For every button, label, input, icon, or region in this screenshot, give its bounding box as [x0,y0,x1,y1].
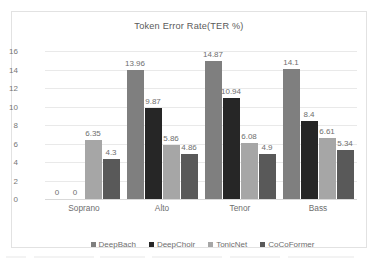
bar-value-label: 8.4 [303,111,314,119]
bar-value-label: 10.94 [221,88,241,96]
category-axis: SopranoAltoTenorBass [45,203,357,213]
bar-value-label: 0 [73,189,77,197]
bar[interactable] [85,140,102,199]
bar-slot: 6.35 [85,51,102,199]
bar-value-label: 0 [55,189,59,197]
gridline [45,199,357,200]
scan-artifact [34,256,94,258]
bar[interactable] [181,154,198,199]
chart-legend: DeepBachDeepChoirTonicNetCoCoFormer [12,240,381,249]
bar-value-label: 4.3 [105,149,116,157]
legend-item[interactable]: TonicNet [208,240,247,249]
y-axis-tick-label: 8 [0,121,18,130]
bar[interactable] [223,98,240,199]
plot-area: 0246810121416 006.354.313.969.875.864.86… [45,51,357,199]
bar-slot: 14.1 [283,51,300,199]
scan-artifact [288,256,354,258]
legend-label: TonicNet [216,240,247,249]
y-axis-tick-label: 6 [0,139,18,148]
legend-item[interactable]: CoCoFormer [260,240,314,249]
scan-artifact [6,256,26,258]
bar-value-label: 14.1 [283,59,299,67]
bar-slot: 6.61 [319,51,336,199]
legend-swatch-icon [260,242,265,247]
legend-item[interactable]: DeepBach [91,240,136,249]
bar-value-label: 14.87 [203,51,223,59]
bar-value-label: 6.61 [319,128,335,136]
bar-value-label: 9.87 [145,98,161,106]
scan-artifact [230,256,280,258]
bar-group: 14.8710.946.084.9 [201,51,279,199]
scan-artifact [152,256,222,258]
bar[interactable] [259,154,276,199]
y-axis-tick-label: 14 [0,65,18,74]
bar-value-label: 4.9 [261,144,272,152]
bar-slot: 14.87 [205,51,222,199]
chart-container: Token Error Rate(TER %) 0246810121416 00… [11,11,367,248]
bar-slot: 0 [67,51,84,199]
scan-artifact [100,256,145,258]
category-label: Alto [123,203,201,213]
bar-slot: 6.08 [241,51,258,199]
bar[interactable] [283,69,300,199]
legend-label: DeepBach [99,240,136,249]
legend-label: CoCoFormer [268,240,314,249]
bar-group: 006.354.3 [45,51,123,199]
bar-slot: 0 [49,51,66,199]
bar-value-label: 5.86 [163,135,179,143]
bar-slot: 4.9 [259,51,276,199]
bar[interactable] [301,121,318,199]
y-axis-tick-label: 0 [0,195,18,204]
bar-groups: 006.354.313.969.875.864.8614.8710.946.08… [45,51,357,199]
y-axis-tick-label: 12 [0,84,18,93]
chart-title: Token Error Rate(TER %) [12,21,366,31]
bar-group: 14.18.46.615.34 [279,51,357,199]
legend-swatch-icon [91,242,96,247]
y-axis-tick-label: 2 [0,176,18,185]
bar-slot: 4.86 [181,51,198,199]
bar[interactable] [145,108,162,199]
bar-slot: 9.87 [145,51,162,199]
bar-slot: 8.4 [301,51,318,199]
bar[interactable] [163,145,180,199]
legend-label: DeepChoir [157,240,195,249]
bar-slot: 4.3 [103,51,120,199]
bar-slot: 5.86 [163,51,180,199]
bar-value-label: 4.86 [181,144,197,152]
category-label: Soprano [45,203,123,213]
category-label: Bass [279,203,357,213]
y-axis-tick-label: 4 [0,158,18,167]
bar[interactable] [103,159,120,199]
bar-group: 13.969.875.864.86 [123,51,201,199]
bar-slot: 5.34 [337,51,354,199]
bar-value-label: 13.96 [125,60,145,68]
legend-item[interactable]: DeepChoir [149,240,195,249]
bar[interactable] [241,143,258,199]
legend-swatch-icon [208,242,213,247]
bar[interactable] [205,61,222,199]
category-label: Tenor [201,203,279,213]
bar-value-label: 6.35 [85,130,101,138]
legend-swatch-icon [149,242,154,247]
bar[interactable] [127,70,144,199]
y-axis-tick-label: 16 [0,47,18,56]
y-axis-tick-label: 10 [0,102,18,111]
bar-value-label: 6.08 [241,133,257,141]
bar-slot: 10.94 [223,51,240,199]
bar[interactable] [319,138,336,199]
bar-slot: 13.96 [127,51,144,199]
bar-value-label: 5.34 [337,140,353,148]
bar[interactable] [337,150,354,199]
